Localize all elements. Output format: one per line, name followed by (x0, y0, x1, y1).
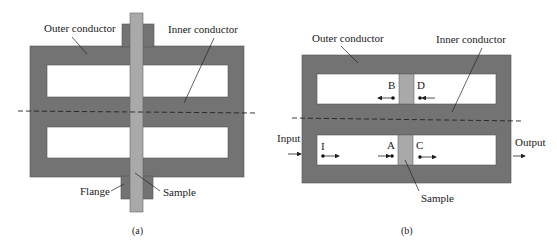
outer-conductor-label-b: Outer conductor (312, 32, 384, 44)
caption-a: (a) (132, 225, 143, 237)
sample-upper-b (399, 74, 414, 104)
diagram-canvas: Outer conductor Inner conductor Flange S… (0, 0, 557, 247)
point-D-label: D (417, 79, 425, 91)
sample-label-b: Sample (421, 192, 454, 204)
point-D-dot (418, 96, 422, 100)
point-B-label: B (388, 79, 395, 91)
flange-label-a: Flange (80, 185, 110, 197)
point-C-dot (418, 155, 422, 159)
point-I-label: I (321, 140, 325, 152)
point-A-dot (390, 154, 394, 158)
sample-a (130, 13, 143, 212)
figure-b: Outer conductor Inner conductor Input Ou… (277, 32, 546, 237)
input-label-b: Input (277, 132, 300, 144)
point-I-dot (321, 154, 325, 158)
figure-a: Outer conductor Inner conductor Flange S… (18, 13, 256, 237)
inner-conductor-label-b: Inner conductor (436, 33, 506, 45)
point-C-label: C (416, 139, 423, 151)
sample-label-a: Sample (163, 186, 196, 198)
output-label-b: Output (515, 136, 546, 148)
point-A-label: A (387, 139, 395, 151)
outer-conductor-label-a: Outer conductor (44, 22, 116, 34)
inner-conductor-label-a: Inner conductor (168, 23, 238, 35)
caption-b: (b) (401, 225, 413, 237)
